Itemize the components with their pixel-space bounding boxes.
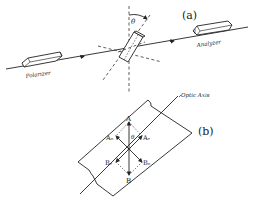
diagram-canvas: Polarizer Analyzer θ (a) [0, 0, 254, 204]
label-Bo: Bₒ [143, 159, 151, 167]
polarizer-label: Polarizer [24, 70, 51, 80]
crystal-plate [118, 31, 145, 62]
figure-a: Polarizer Analyzer θ (a) [6, 6, 248, 92]
analyzer-label: Analyzer [195, 39, 222, 50]
optic-axis-label: Optic Axis [181, 92, 210, 99]
figure-b-label: (b) [198, 125, 214, 138]
analyzer [193, 21, 232, 35]
polarizer [22, 52, 62, 67]
label-B: B [126, 177, 131, 185]
diagram: Polarizer Analyzer θ (a) [0, 0, 254, 204]
theta-label-a: θ [131, 18, 136, 26]
label-A: A [125, 115, 132, 123]
label-Ae: Aₑ [142, 134, 151, 142]
figure-b: Optic Axis A B Aₒ Aₑ Bₑ Bₒ θ (b) [78, 92, 214, 196]
label-Be: Bₑ [105, 159, 113, 167]
crystal-slab [78, 100, 192, 196]
figure-a-label: (a) [182, 9, 197, 22]
label-Ao: Aₒ [105, 134, 114, 142]
beam-arrow [170, 41, 174, 42]
